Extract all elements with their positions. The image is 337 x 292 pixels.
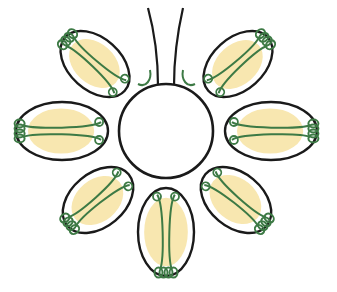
petal-lower-right: [188, 154, 286, 248]
petal-left: [15, 102, 108, 160]
petal-upper-left: [46, 17, 142, 111]
petal-fill: [237, 108, 303, 153]
center-circle: [119, 84, 213, 178]
petal-fill: [144, 198, 188, 267]
stalk: [148, 8, 183, 86]
flower-diagram: [0, 0, 337, 292]
petal-fill: [28, 108, 94, 153]
petal-upper-right: [191, 17, 287, 111]
petal-right: [225, 102, 318, 160]
diagram-svg: [0, 0, 337, 292]
petal-bottom: [138, 188, 194, 278]
petal-lower-left: [48, 154, 146, 248]
